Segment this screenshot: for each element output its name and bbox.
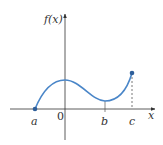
point-label-b: b: [101, 115, 108, 128]
endpoint-c-dot: [130, 71, 135, 76]
function-curve: [35, 73, 132, 109]
point-label-c: c: [129, 115, 135, 128]
point-label-a: a: [31, 115, 38, 128]
y-axis-label: f(x): [43, 13, 63, 26]
endpoint-a-dot: [33, 107, 38, 112]
origin-label: 0: [57, 110, 64, 123]
x-axis-label: x: [148, 109, 155, 122]
function-graph: f(x) x 0 a b c: [0, 0, 163, 145]
